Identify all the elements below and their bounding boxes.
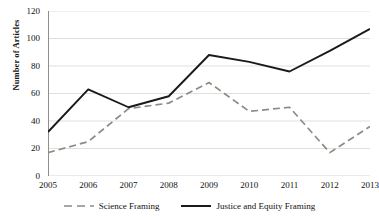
x-tick-label-2008: 2008 [160, 180, 178, 190]
x-tick-label-2007: 2007 [120, 180, 138, 190]
y-tick-label-40: 40 [31, 117, 40, 126]
x-tick-label-2011: 2011 [281, 180, 299, 190]
legend-swatch-dashed-line-icon [64, 203, 94, 209]
legend-item-justice-and-equity-framing[interactable]: Justice and Equity Framing [181, 201, 315, 211]
y-tick-label-20: 20 [31, 144, 40, 153]
legend-item-science-framing[interactable]: Science Framing [64, 201, 160, 211]
x-axis-tick-labels: 200520062007200820092010201120122013 [0, 180, 379, 194]
plot-area [48, 11, 370, 176]
x-tick-label-2013: 2013 [361, 180, 379, 190]
y-tick-label-120: 120 [27, 7, 41, 16]
x-tick-label-2006: 2006 [79, 180, 97, 190]
x-tick-label-2005: 2005 [39, 180, 57, 190]
axis-lines [48, 11, 49, 176]
plot-svg [48, 11, 370, 176]
x-tick-label-2009: 2009 [200, 180, 218, 190]
x-tick-label-2012: 2012 [321, 180, 339, 190]
legend-label: Justice and Equity Framing [216, 201, 315, 211]
chart-legend: Science FramingJustice and Equity Framin… [0, 198, 379, 214]
legend-swatch-solid-line-icon [181, 203, 211, 209]
line-chart-figure: Number of Articles 120100806040200 20052… [0, 0, 379, 217]
x-tick-label-2010: 2010 [240, 180, 258, 190]
y-tick-label-60: 60 [31, 89, 40, 98]
series-line-justice-and-equity-framing [48, 29, 370, 132]
y-tick-label-80: 80 [31, 62, 40, 71]
y-tick-label-100: 100 [27, 34, 41, 43]
legend-label: Science Framing [99, 201, 160, 211]
data-series-layer [48, 29, 370, 153]
